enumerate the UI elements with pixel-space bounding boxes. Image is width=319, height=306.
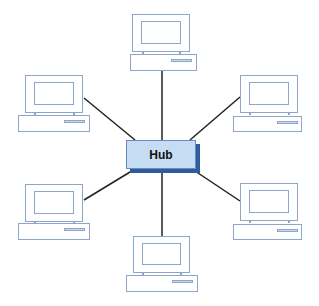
link-lower-left [84,169,135,200]
drive-slot [171,59,192,62]
screen [141,21,181,44]
system-unit [18,223,90,240]
link-upper-left [84,98,135,140]
system-unit [126,275,198,292]
link-lower-right [192,169,240,201]
system-unit [130,54,197,71]
monitor [132,14,190,52]
system-unit [233,224,302,240]
hub-node: Hub [126,140,196,169]
hub-label: Hub [149,148,172,162]
system-unit [233,116,302,132]
system-unit [18,115,90,132]
